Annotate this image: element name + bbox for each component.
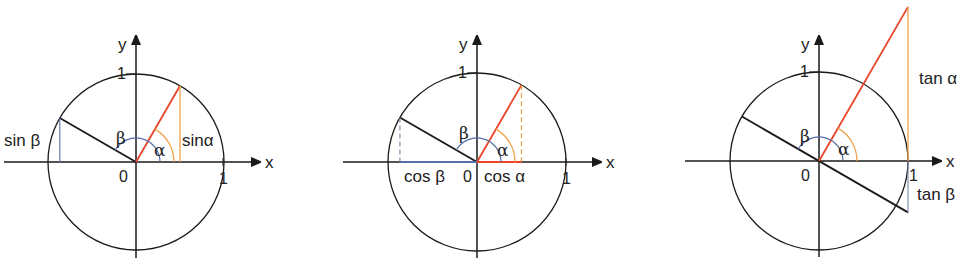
panel-tangent: y x 1 1 0 β α tan α tan β <box>685 7 957 257</box>
beta-label: β <box>800 126 810 146</box>
cos-alpha-label: cos α <box>484 167 525 186</box>
sin-beta-label: sin β <box>4 131 40 150</box>
tan-alpha-label: tan α <box>919 69 957 88</box>
unit-y-label: 1 <box>800 63 809 80</box>
panel-sine: y x 1 1 0 β α sinα sin β <box>4 35 274 258</box>
beta-label: β <box>459 123 469 143</box>
y-axis-label: y <box>459 35 468 54</box>
unit-x-label: 1 <box>562 170 571 187</box>
unit-x-label: 1 <box>219 170 228 187</box>
alpha-ray <box>819 7 908 161</box>
y-axis-label: y <box>801 35 810 54</box>
alpha-label: α <box>497 140 509 160</box>
unit-y-label: 1 <box>458 64 467 81</box>
sin-alpha-label: sinα <box>182 131 214 150</box>
x-axis-label: x <box>265 153 274 172</box>
x-axis-label: x <box>946 152 955 171</box>
panel-cosine: y x 1 1 0 β α cos α cos β <box>343 35 615 258</box>
origin-label: 0 <box>463 168 472 185</box>
origin-label: 0 <box>119 168 128 185</box>
origin-label: 0 <box>801 167 810 184</box>
unit-circle-figure: y x 1 1 0 β α sinα sin β y x 1 1 0 β α c… <box>0 0 971 264</box>
alpha-label: α <box>154 140 166 160</box>
unit-y-label: 1 <box>117 65 126 82</box>
cos-beta-label: cos β <box>404 167 445 186</box>
tan-beta-label: tan β <box>917 185 955 204</box>
alpha-label: α <box>838 139 850 159</box>
unit-x-label: 1 <box>909 167 918 184</box>
y-axis-label: y <box>118 35 127 54</box>
x-axis-label: x <box>606 153 615 172</box>
beta-label: β <box>116 128 126 148</box>
beta-ray <box>742 117 908 213</box>
